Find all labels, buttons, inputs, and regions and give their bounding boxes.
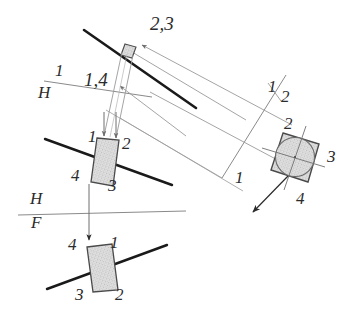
- label-front-plate-p4: 4: [68, 236, 77, 253]
- label-top-plate-p2: 2: [122, 135, 131, 152]
- label-fold-12-left: 1: [235, 169, 244, 186]
- center-point: [294, 156, 296, 158]
- label-aux-edge-points: 1,4: [84, 70, 108, 89]
- label-fold-12-upper: 1: [268, 78, 277, 95]
- label-front-plate-p2: 2: [115, 286, 124, 303]
- label-fold-hf-upper: H: [30, 190, 42, 207]
- projection-band: [120, 45, 300, 172]
- line-of-sight-arrow: [253, 176, 288, 212]
- label-square-p3: 3: [327, 148, 336, 165]
- label-top-plate-p3: 3: [108, 177, 117, 194]
- fold-line-H-F: [18, 211, 186, 215]
- label-top-plate-p1: 1: [88, 128, 97, 145]
- label-square-p2: 2: [284, 115, 293, 132]
- label-fold-12-lower: 2: [281, 88, 290, 105]
- label-fold-1h-upper: 1: [55, 62, 64, 79]
- drawing-canvas: 2,3 1,4 1 H H F 1 2 1 1 2 4 3 4 1 3 2 2 …: [0, 0, 351, 311]
- label-fold-hf-lower: F: [31, 214, 41, 231]
- label-front-plate-p3: 3: [75, 286, 84, 303]
- true-size-square: [262, 126, 325, 190]
- label-top-view-points: 2,3: [150, 14, 174, 33]
- label-fold-1h-lower: H: [38, 84, 50, 101]
- geometry-figure: [0, 0, 351, 311]
- label-front-plate-p1: 1: [110, 234, 119, 251]
- aux-edge-plate: [121, 44, 136, 58]
- aux-sliver-band: [104, 52, 133, 138]
- label-square-p4: 4: [296, 190, 305, 207]
- label-top-plate-p4: 4: [71, 167, 80, 184]
